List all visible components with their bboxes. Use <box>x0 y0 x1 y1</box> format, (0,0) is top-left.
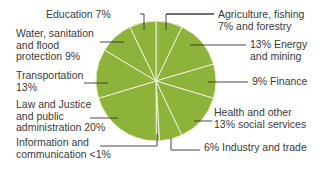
pie-slices <box>96 21 216 141</box>
label-law: Law and Justice and public administratio… <box>16 99 105 134</box>
label-health: Health and other 13% social services <box>214 107 306 130</box>
label-finance: 9% Finance <box>252 76 307 88</box>
label-industry: 6% Industry and trade <box>204 142 307 154</box>
label-energy: 13% Energy and mining <box>250 39 307 62</box>
label-education: Education 7% <box>46 9 111 21</box>
label-information: Information and communication <1% <box>16 137 111 160</box>
leader-line <box>171 138 200 150</box>
label-transportation: Transportation 13% <box>16 70 83 93</box>
label-water: Water, sanitation and flood protection 9… <box>16 28 94 63</box>
label-agriculture: Agriculture, fishing 7% and forestry <box>218 9 304 32</box>
